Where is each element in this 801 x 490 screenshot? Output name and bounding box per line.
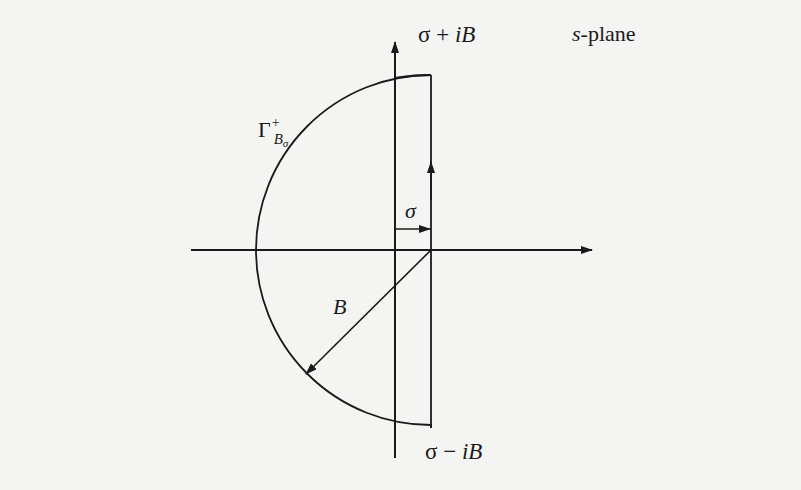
label-sigma: σ bbox=[425, 439, 437, 464]
label-sigma-minus-ib: σ − iB bbox=[425, 440, 482, 463]
gamma-superscript: + bbox=[272, 115, 280, 130]
label-op: − bbox=[437, 439, 461, 464]
radius-b-arrow bbox=[306, 250, 431, 374]
label-sigma-plus-ib: σ + iB bbox=[418, 23, 475, 46]
s-plane-diagram bbox=[0, 0, 801, 490]
label-b: B bbox=[468, 439, 482, 464]
gamma-symbol: Γ bbox=[258, 117, 271, 142]
contour-top-cap bbox=[395, 75, 431, 78]
subscript-sigma: σ bbox=[283, 137, 288, 149]
label-b: B bbox=[461, 22, 475, 47]
contour-label: Γ+Bσ bbox=[258, 116, 288, 149]
sigma-offset-label: σ bbox=[405, 200, 416, 222]
subscript-b: B bbox=[274, 131, 283, 147]
radius-label: B bbox=[333, 296, 346, 318]
plane-label-s: s bbox=[572, 21, 581, 46]
plane-label: s-plane bbox=[572, 23, 636, 45]
label-op: + bbox=[430, 22, 454, 47]
plane-label-suffix: -plane bbox=[581, 21, 636, 46]
gamma-subscript: Bσ bbox=[274, 131, 289, 147]
label-sigma: σ bbox=[418, 22, 430, 47]
